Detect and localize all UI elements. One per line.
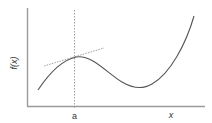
- function-tangent-diagram: f(x) x a: [0, 0, 212, 123]
- x-axis-label: x: [168, 110, 174, 120]
- point-a-label: a: [72, 111, 77, 121]
- y-axis-label: f(x): [9, 57, 19, 70]
- function-curve: [38, 16, 194, 90]
